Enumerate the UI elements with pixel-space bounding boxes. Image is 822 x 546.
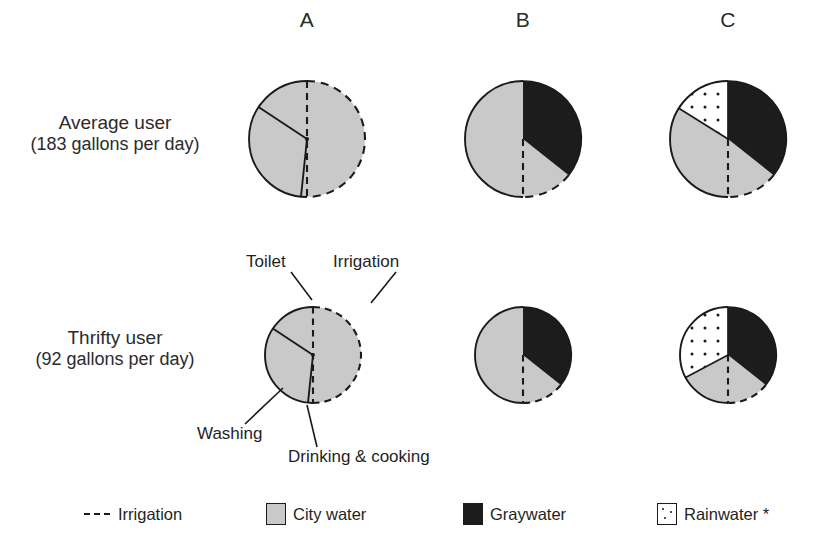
- dashed-line-icon: [84, 513, 110, 515]
- legend-item-graywater: Graywater: [463, 497, 566, 531]
- column-header-C: C: [698, 8, 758, 32]
- pie-thrifty-B: [475, 307, 571, 403]
- legend-label-city-water: City water: [293, 505, 366, 524]
- city-water-swatch-icon: [266, 503, 286, 525]
- pie-average-A: [249, 81, 365, 197]
- row-label-thrifty-user: Thrifty user (92 gallons per day): [0, 326, 240, 371]
- row-label-average-user: Average user (183 gallons per day): [0, 111, 240, 156]
- washing-leader: [245, 388, 283, 424]
- pie-thrifty-C: [680, 307, 776, 403]
- column-header-B: B: [493, 8, 553, 32]
- legend: Irrigation City water Graywater Rainwate…: [0, 497, 822, 531]
- toilet-leader: [291, 272, 312, 300]
- legend-label-irrigation: Irrigation: [118, 505, 182, 524]
- graywater-swatch-icon: [463, 503, 483, 525]
- water-use-pie-figure: A B C Average user (183 gallons per day)…: [0, 0, 822, 546]
- rainwater-swatch-icon: [657, 503, 677, 525]
- legend-item-city-water: City water: [266, 497, 366, 531]
- row-label-thrifty-line1: Thrifty user: [67, 327, 162, 348]
- row-label-thrifty-line2: (92 gallons per day): [0, 349, 240, 371]
- legend-label-rainwater: Rainwater *: [684, 505, 769, 524]
- callout-drinking-cooking: Drinking & cooking: [288, 447, 430, 467]
- pie-average-C: [670, 81, 786, 197]
- callout-irrigation: Irrigation: [333, 252, 399, 272]
- column-header-A: A: [277, 8, 337, 32]
- pie-thrifty-A: [265, 307, 361, 403]
- row-label-average-line2: (183 gallons per day): [0, 134, 240, 156]
- row-label-average-line1: Average user: [59, 112, 172, 133]
- drinking-leader: [307, 405, 317, 447]
- pie-average-B: [465, 81, 581, 197]
- legend-item-rainwater: Rainwater *: [657, 497, 769, 531]
- callout-toilet: Toilet: [246, 252, 286, 272]
- callout-washing: Washing: [197, 424, 263, 444]
- legend-item-irrigation: Irrigation: [84, 497, 182, 531]
- legend-label-graywater: Graywater: [490, 505, 566, 524]
- irrigation-leader: [371, 272, 396, 303]
